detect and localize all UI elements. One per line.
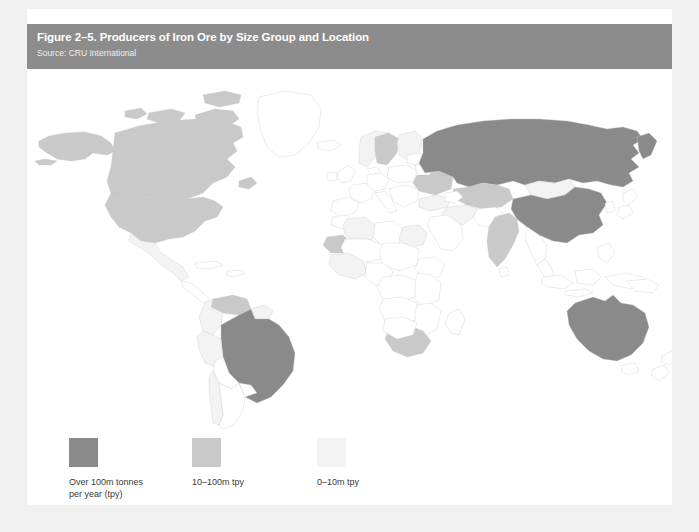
- legend-swatch-mid: [192, 438, 221, 467]
- region-alaska: [39, 132, 115, 161]
- figure-title: Figure 2–5. Producers of Iron Ore by Siz…: [37, 29, 672, 45]
- region-hispaniola: [226, 270, 245, 277]
- region-japan-south: [617, 205, 633, 219]
- legend-label-high: Over 100m tonnes per year (tpy): [69, 476, 179, 500]
- region-russia: [419, 119, 643, 187]
- legend-swatch-high: [69, 438, 98, 467]
- world-map: [27, 81, 672, 431]
- legend-item-mid: 10–100m tpy: [192, 438, 302, 488]
- region-iceland: [317, 140, 341, 151]
- figure-source: Source: CRU International: [37, 47, 672, 60]
- region-newfoundland: [239, 177, 257, 189]
- figure-header-bar: Figure 2–5. Producers of Iron Ore by Siz…: [27, 24, 672, 69]
- region-spain-portugal: [331, 197, 359, 217]
- region-greenland: [257, 91, 321, 157]
- region-banks-island: [125, 108, 147, 119]
- world-map-container: [27, 81, 672, 431]
- region-sri-lanka: [499, 267, 509, 277]
- region-central-america: [181, 281, 209, 303]
- region-japan: [623, 189, 637, 205]
- legend-label-mid: 10–100m tpy: [192, 476, 302, 488]
- region-indonesia-sumatra: [541, 275, 573, 289]
- region-sweden: [375, 133, 399, 165]
- region-poland-baltics: [387, 165, 417, 183]
- legend-label-low: 0–10m tpy: [317, 476, 427, 488]
- legend-swatch-low: [317, 438, 346, 467]
- region-madagascar: [445, 309, 465, 335]
- region-indonesia-java: [565, 289, 593, 297]
- region-united-kingdom: [337, 165, 355, 183]
- map-legend: Over 100m tonnes per year (tpy) 10–100m …: [69, 438, 649, 498]
- region-canada: [107, 119, 243, 207]
- region-east-africa: [415, 273, 441, 307]
- region-tasmania: [621, 363, 639, 375]
- region-cuba: [195, 261, 223, 269]
- region-korea: [605, 201, 615, 213]
- region-borneo: [575, 269, 601, 285]
- region-aleutians: [35, 159, 57, 165]
- region-argentina: [219, 383, 245, 429]
- figure-card: Figure 2–5. Producers of Iron Ore by Siz…: [27, 9, 672, 505]
- legend-item-low: 0–10m tpy: [317, 438, 427, 488]
- region-kamchatka: [637, 133, 657, 159]
- region-australia: [567, 295, 649, 361]
- region-ellesmere: [203, 91, 241, 107]
- region-new-zealand-north: [661, 351, 672, 365]
- region-philippines: [597, 243, 615, 263]
- region-libya: [373, 221, 403, 245]
- region-new-zealand-south: [651, 365, 669, 381]
- region-ireland: [327, 172, 337, 181]
- region-new-guinea-png: [627, 279, 659, 293]
- legend-item-high: Over 100m tonnes per year (tpy): [69, 438, 179, 500]
